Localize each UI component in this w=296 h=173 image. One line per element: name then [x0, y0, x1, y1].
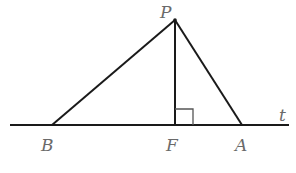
label-a: A — [233, 135, 247, 155]
label-f: F — [165, 135, 179, 155]
point-p — [173, 18, 177, 22]
right-angle-marker — [175, 109, 193, 125]
label-p: P — [159, 2, 172, 22]
geometry-diagram: P B F A t — [0, 0, 296, 173]
label-b: B — [40, 135, 54, 155]
segment-pb — [52, 20, 175, 125]
label-t: t — [279, 105, 286, 125]
